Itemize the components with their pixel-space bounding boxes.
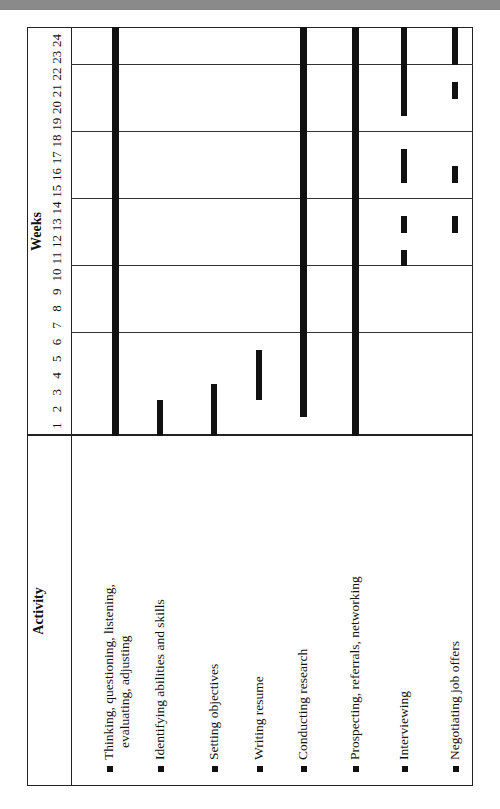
table-frame bbox=[27, 27, 473, 786]
week-label: 24 bbox=[49, 34, 65, 47]
activity-name: Thinking, questioning, listening, bbox=[101, 584, 116, 760]
activity-bar bbox=[256, 350, 262, 400]
bullet-icon bbox=[453, 766, 459, 772]
bullet-icon bbox=[402, 766, 408, 772]
week-label: 23 bbox=[49, 51, 65, 64]
gridline bbox=[71, 266, 473, 267]
week-label: 4 bbox=[49, 372, 65, 379]
week-label: 19 bbox=[49, 118, 65, 131]
weeks-header: Weeks bbox=[29, 27, 45, 436]
activity-name-cont: evaluating, adjusting bbox=[117, 584, 133, 772]
week-label: 13 bbox=[49, 218, 65, 231]
activity-header: Activity bbox=[31, 436, 47, 786]
week-label: 15 bbox=[49, 185, 65, 198]
activity-name: Identifying abilities and skills bbox=[152, 599, 167, 760]
week-label: 7 bbox=[49, 322, 65, 329]
activity-name: Writing resume bbox=[251, 676, 266, 760]
activity-bar bbox=[452, 49, 458, 66]
activity-label: Writing resume bbox=[251, 676, 267, 772]
activity-label: Thinking, questioning, listening,evaluat… bbox=[101, 584, 133, 772]
scan-top-band bbox=[0, 0, 500, 10]
week-label: 8 bbox=[49, 305, 65, 312]
activity-name: Interviewing bbox=[396, 691, 411, 760]
activity-bar bbox=[401, 216, 407, 233]
activity-bar bbox=[401, 66, 407, 116]
activity-bar bbox=[452, 166, 458, 183]
gridline bbox=[71, 333, 473, 334]
week-label: 18 bbox=[49, 134, 65, 147]
bullet-icon bbox=[158, 766, 164, 772]
activity-name: Conducting research bbox=[295, 649, 310, 760]
week-label: 3 bbox=[49, 389, 65, 396]
activity-label: Negotiating job offers bbox=[447, 641, 463, 772]
activity-label: Interviewing bbox=[396, 691, 412, 772]
activity-name: Setting objectives bbox=[206, 664, 221, 760]
activity-bar bbox=[352, 27, 359, 436]
activity-bar bbox=[401, 250, 407, 267]
activity-name: Negotiating job offers bbox=[447, 641, 462, 760]
week-label: 2 bbox=[49, 406, 65, 413]
activity-bar bbox=[452, 216, 458, 233]
week-label: 14 bbox=[49, 201, 65, 214]
week-label: 12 bbox=[49, 235, 65, 248]
week-label: 9 bbox=[49, 288, 65, 295]
gridline bbox=[71, 199, 473, 200]
week-label: 11 bbox=[49, 252, 65, 265]
week-label: 1 bbox=[49, 422, 65, 429]
week-label: 6 bbox=[49, 339, 65, 346]
activity-bar bbox=[112, 27, 119, 436]
bullet-icon bbox=[107, 766, 113, 772]
week-label: 20 bbox=[49, 101, 65, 114]
bullet-icon bbox=[301, 766, 307, 772]
week-label: 21 bbox=[49, 84, 65, 97]
week-label: 16 bbox=[49, 168, 65, 181]
activity-bar bbox=[401, 149, 407, 183]
gridline bbox=[71, 65, 473, 66]
activity-label: Setting objectives bbox=[206, 664, 222, 772]
gantt-table: Activity Weeks 1234567891011121314151617… bbox=[27, 27, 473, 786]
bullet-icon bbox=[353, 766, 359, 772]
week-label: 22 bbox=[49, 67, 65, 80]
activity-column-divider bbox=[27, 434, 473, 436]
activity-label: Conducting research bbox=[295, 649, 311, 772]
bullet-icon bbox=[212, 766, 218, 772]
activity-label: Identifying abilities and skills bbox=[152, 599, 168, 772]
header-divider bbox=[71, 27, 72, 786]
activity-bar bbox=[157, 401, 163, 437]
activity-bar bbox=[452, 27, 458, 49]
activity-bar bbox=[401, 27, 407, 66]
activity-name: Prospecting, referrals, networking bbox=[347, 576, 362, 760]
activity-label: Prospecting, referrals, networking bbox=[347, 576, 363, 772]
week-label: 17 bbox=[49, 151, 65, 164]
bullet-icon bbox=[257, 766, 263, 772]
week-label: 10 bbox=[49, 268, 65, 281]
activity-bar bbox=[452, 82, 458, 99]
activity-bar bbox=[300, 27, 307, 417]
gridline bbox=[71, 132, 473, 133]
week-label: 5 bbox=[49, 355, 65, 362]
activity-bar bbox=[211, 384, 217, 436]
